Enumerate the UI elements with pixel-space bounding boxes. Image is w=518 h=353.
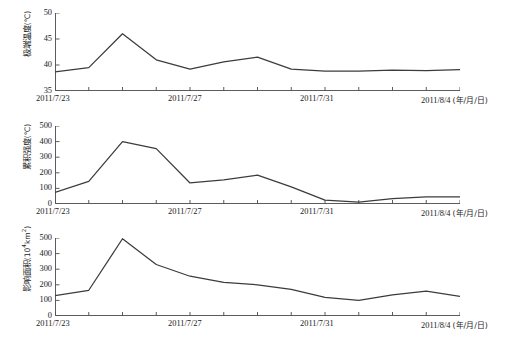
y-tick-panel-2-1: 100 [26,296,52,304]
x-tick-panel-2-1: 2011/7/27 [168,319,202,328]
y-tick-panel-2-5: 500 [26,234,52,242]
plot-area-panel-2 [55,238,460,316]
x-tick-panel-1-1: 2011/7/27 [168,207,202,216]
y-tick-panel-1-2: 200 [26,169,52,177]
x-axis-unit-panel-1: (年/月/日) [453,209,488,218]
x-tick-panel-2-3: 2011/8/4 (年/月/日) [421,319,488,330]
line-plot-svg-panel-0 [55,13,460,91]
y-tick-labels-panel-2: 500 400 300 200 100 0 [24,238,52,316]
chart-panel-extreme-temperature: 极端温度(℃) 50 45 40 35 2011/7/23 2011/7/27 … [0,2,518,115]
y-tick-labels-panel-1: 500 400 300 200 100 0 [24,126,52,204]
plot-area-panel-0 [55,13,460,91]
y-tick-panel-0-1: 40 [26,61,52,69]
y-tick-panel-1-4: 400 [26,138,52,146]
y-tick-panel-0-3: 50 [26,9,52,17]
x-tick-panel-0-2: 2011/7/31 [300,94,334,103]
x-tick-panel-0-1: 2011/7/27 [168,94,202,103]
y-tick-panel-2-3: 300 [26,265,52,273]
y-tick-panel-2-2: 200 [26,281,52,289]
x-tick-panel-0-3: 2011/8/4 (年/月/日) [421,94,488,105]
x-tick-panel-1-0: 2011/7/23 [36,207,70,216]
y-tick-panel-1-1: 100 [26,184,52,192]
figure-multi-panel-line-chart: 极端温度(℃) 50 45 40 35 2011/7/23 2011/7/27 … [0,0,518,353]
x-tick-panel-0-3-label: 2011/8/4 [421,96,450,105]
x-tick-panel-2-2: 2011/7/31 [300,319,334,328]
line-plot-svg-panel-2 [55,238,460,316]
x-tick-panel-2-0: 2011/7/23 [36,319,70,328]
chart-panel-cumulative-intensity: 累积强度(℃) 500 400 300 200 100 0 2011/7/23 … [0,115,518,228]
x-tick-panel-0-0: 2011/7/23 [36,94,70,103]
x-tick-panel-1-2: 2011/7/31 [300,207,334,216]
x-axis-unit-panel-0: (年/月/日) [453,96,488,105]
y-tick-panel-0-2: 45 [26,35,52,43]
chart-panel-affected-area: 影响面积(104km2) 500 400 300 200 100 0 2011/… [0,227,518,340]
x-tick-panel-1-3-label: 2011/8/4 [421,209,450,218]
x-tick-panel-1-3: 2011/8/4 (年/月/日) [421,207,488,218]
plot-area-panel-1 [55,126,460,204]
y-tick-panel-1-5: 500 [26,122,52,130]
x-axis-unit-panel-2: (年/月/日) [453,321,488,330]
y-tick-panel-1-3: 300 [26,153,52,161]
x-tick-panel-2-3-label: 2011/8/4 [421,321,450,330]
y-tick-labels-panel-0: 50 45 40 35 [24,13,52,91]
y-tick-panel-2-4: 400 [26,250,52,258]
line-plot-svg-panel-1 [55,126,460,204]
